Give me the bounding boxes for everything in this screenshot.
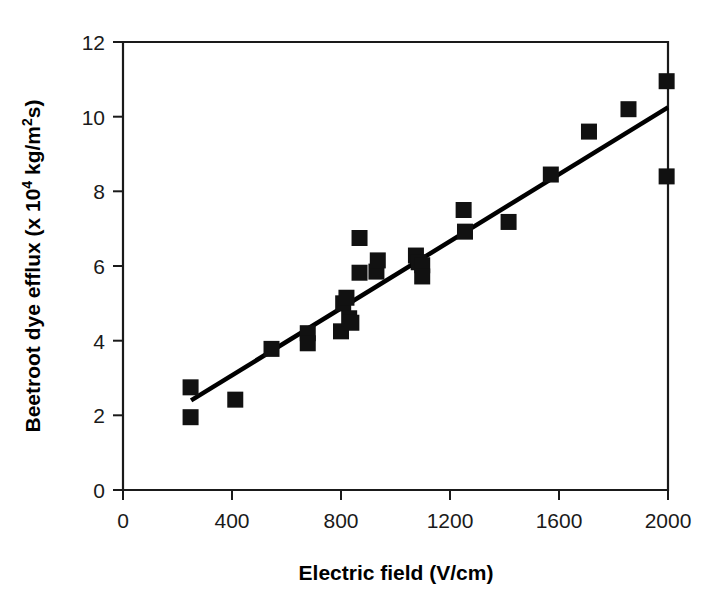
- y-axis-title-sup2: 2: [19, 118, 35, 126]
- data-point: [620, 101, 636, 117]
- x-tick-label-400: 400: [214, 509, 249, 532]
- data-point: [659, 168, 675, 184]
- data-point: [659, 73, 675, 89]
- y-axis-ticks: [113, 42, 123, 490]
- scatter-plot: 12 10 8 6 4 2 0 0 400 800 1200 1600 2000…: [0, 0, 723, 616]
- y-tick-label-4: 4: [93, 330, 105, 353]
- x-axis-title: Electric field (V/cm): [299, 561, 494, 584]
- data-point: [370, 252, 386, 268]
- x-tick-label-0: 0: [117, 509, 129, 532]
- plot-frame: [123, 42, 668, 490]
- data-point: [456, 202, 472, 218]
- y-tick-label-12: 12: [82, 31, 105, 54]
- y-axis-title: Beetroot dye efflux (x 104 kg/m2s): [19, 99, 44, 432]
- y-axis-title-part2: kg/m: [21, 126, 44, 181]
- data-point: [338, 290, 354, 306]
- y-axis-tick-labels: 12 10 8 6 4 2 0: [82, 31, 106, 502]
- y-axis-title-part1: Beetroot dye efflux (x 10: [21, 189, 44, 433]
- y-tick-label-6: 6: [93, 255, 105, 278]
- data-point: [352, 230, 368, 246]
- data-point: [543, 167, 559, 183]
- y-axis-title-part3: s): [21, 99, 44, 118]
- data-point: [581, 124, 597, 140]
- data-point: [227, 392, 243, 408]
- x-tick-label-1200: 1200: [427, 509, 474, 532]
- x-tick-label-800: 800: [323, 509, 358, 532]
- data-point: [183, 409, 199, 425]
- svg-text:Beetroot dye efflux (x 104 kg/: Beetroot dye efflux (x 104 kg/m2s): [19, 99, 44, 432]
- data-point-group: [183, 73, 675, 425]
- chart-figure: 12 10 8 6 4 2 0 0 400 800 1200 1600 2000…: [0, 0, 723, 616]
- x-tick-label-2000: 2000: [645, 509, 692, 532]
- data-point: [457, 224, 473, 240]
- data-point: [414, 268, 430, 284]
- y-axis-title-sup1: 4: [19, 181, 35, 189]
- y-tick-label-2: 2: [93, 404, 105, 427]
- data-point: [501, 214, 517, 230]
- y-tick-label-8: 8: [93, 180, 105, 203]
- data-point: [300, 335, 316, 351]
- y-tick-label-10: 10: [82, 106, 105, 129]
- data-point: [343, 315, 359, 331]
- data-point: [352, 265, 368, 281]
- data-point: [264, 341, 280, 357]
- x-axis-tick-labels: 0 400 800 1200 1600 2000: [117, 509, 691, 532]
- y-tick-label-0: 0: [93, 479, 105, 502]
- trend-line: [191, 107, 668, 400]
- x-axis-ticks: [123, 490, 668, 500]
- data-point: [183, 379, 199, 395]
- x-tick-label-1600: 1600: [536, 509, 583, 532]
